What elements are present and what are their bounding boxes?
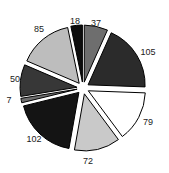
pie-slice-label: 37 bbox=[91, 19, 101, 28]
pie-slices-group bbox=[20, 25, 145, 151]
pie-slice-label: 7 bbox=[6, 96, 11, 105]
pie-chart: 3710579721027508518 bbox=[0, 0, 169, 173]
pie-slice-label: 79 bbox=[143, 118, 153, 127]
pie-slice-label: 105 bbox=[140, 48, 155, 57]
pie-chart-svg bbox=[0, 0, 169, 173]
pie-slice-label: 85 bbox=[34, 25, 44, 34]
pie-slice-label: 102 bbox=[26, 135, 41, 144]
pie-slice-label: 50 bbox=[10, 75, 20, 84]
pie-slice-label: 72 bbox=[83, 157, 93, 166]
pie-slice-label: 18 bbox=[70, 17, 80, 26]
